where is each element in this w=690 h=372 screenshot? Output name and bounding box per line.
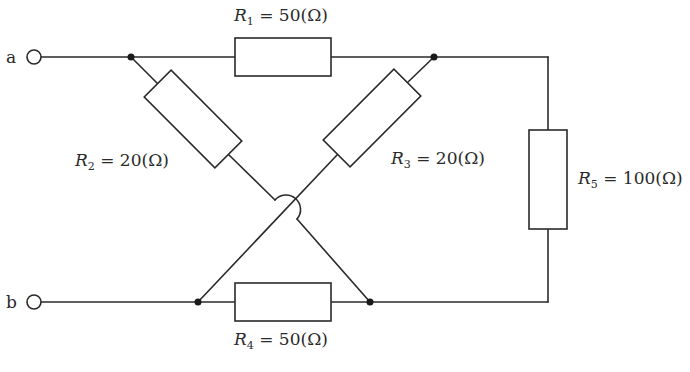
junction-node xyxy=(431,54,438,61)
wires xyxy=(41,57,548,302)
resistor-r4 xyxy=(235,283,331,321)
r5-label: R5 = 100(Ω) xyxy=(577,168,683,191)
terminal-b xyxy=(27,295,41,309)
resistor-r3 xyxy=(323,69,421,167)
terminal-a-label: a xyxy=(6,47,16,67)
resistor-r5 xyxy=(529,130,567,229)
r4-label: R4 = 50(Ω) xyxy=(233,329,328,352)
r1-label: R1 = 50(Ω) xyxy=(233,5,328,28)
resistor-r1 xyxy=(235,38,331,76)
terminal-a xyxy=(27,50,41,64)
terminal-b-label: b xyxy=(6,292,17,312)
junction-node xyxy=(128,54,135,61)
r3-label: R3 = 20(Ω) xyxy=(390,148,485,171)
junction-node xyxy=(367,299,374,306)
circuit-diagram: a b R1 = 50(Ω) R2 = 20(Ω) R3 = 20(Ω) R4 … xyxy=(0,0,690,372)
r2-label: R2 = 20(Ω) xyxy=(74,150,169,173)
junction-node xyxy=(195,299,202,306)
